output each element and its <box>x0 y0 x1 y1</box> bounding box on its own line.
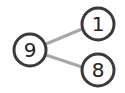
connector-whole-to-part-2 <box>46 55 82 67</box>
number-bond-diagram: 9 1 8 <box>0 0 125 93</box>
part-2-value: 8 <box>92 58 105 82</box>
connector-whole-to-part-1 <box>46 29 82 44</box>
part-node-2: 8 <box>82 54 114 86</box>
whole-node: 9 <box>14 34 46 66</box>
part-node-1: 1 <box>82 8 114 40</box>
part-1-value: 1 <box>92 12 105 36</box>
whole-value: 9 <box>24 38 37 62</box>
